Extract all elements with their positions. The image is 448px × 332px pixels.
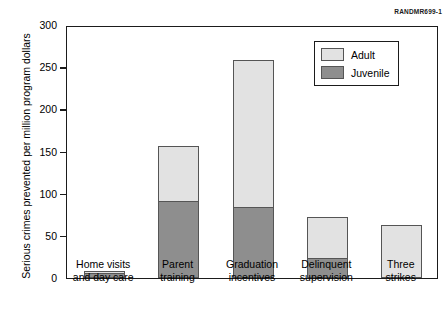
y-tick-mark: [60, 109, 67, 110]
y-tick-mark: [60, 194, 67, 195]
x-tick-label: Threestrikes: [364, 258, 438, 284]
source-credit: RANDMR699-1: [394, 8, 442, 15]
y-tick-label: 50: [17, 230, 57, 242]
y-tick-label: 150: [17, 146, 57, 158]
legend-label-juvenile: Juvenile: [351, 67, 390, 79]
bar-graduation-incentives[interactable]: [233, 60, 274, 278]
x-tick-label: Home visitsand day care: [66, 258, 140, 284]
y-tick-label: 300: [17, 19, 57, 31]
bar-segment-adult: [307, 217, 348, 259]
y-tick-mark: [60, 152, 67, 153]
legend-item-juvenile: Juvenile: [321, 65, 390, 80]
x-tick-label: Parenttraining: [140, 258, 214, 284]
x-tick-label: Graduationincentives: [215, 258, 289, 284]
y-tick-label: 250: [17, 61, 57, 73]
y-tick-mark: [60, 67, 67, 68]
legend-swatch-adult: [321, 48, 344, 61]
bar-segment-adult: [233, 60, 274, 208]
chart-legend: Adult Juvenile: [314, 41, 399, 86]
bar-segment-adult: [158, 146, 199, 203]
y-tick-mark: [60, 236, 67, 237]
legend-swatch-juvenile: [321, 66, 344, 79]
chart-figure: RANDMR699-1 Serious crimes prevented per…: [0, 0, 448, 332]
y-tick-label: 100: [17, 188, 57, 200]
legend-label-adult: Adult: [351, 49, 375, 61]
y-tick-label: 0: [17, 272, 57, 284]
y-tick-label: 200: [17, 103, 57, 115]
x-tick-label: Delinquentsupervision: [289, 258, 363, 284]
legend-item-adult: Adult: [321, 47, 390, 62]
